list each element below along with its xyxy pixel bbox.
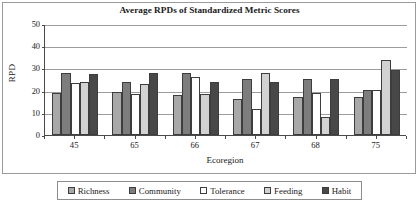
plot-area (44, 25, 406, 136)
legend-item[interactable]: Community (129, 186, 181, 196)
bar-group (226, 24, 286, 135)
bar (372, 90, 381, 136)
bar (210, 82, 219, 136)
bar (330, 79, 339, 135)
bar-group (45, 24, 105, 135)
bar-group (286, 24, 346, 135)
x-axis-label: Ecoregion (44, 155, 406, 165)
y-axis-tick-label: 40 (18, 43, 40, 51)
bar (140, 84, 149, 135)
bar (173, 95, 182, 135)
legend-swatch-icon (264, 187, 271, 194)
x-axis-boundary-tick (406, 136, 407, 139)
x-axis-tick-label: 66 (175, 140, 215, 150)
x-axis-boundary-tick (44, 136, 45, 139)
y-axis-tick-label: 20 (18, 88, 40, 96)
y-axis-tick-label: 0 (18, 132, 40, 140)
legend-label: Community (139, 186, 181, 196)
bar (149, 73, 158, 135)
legend-label: Tolerance (210, 186, 245, 196)
x-axis-tick (255, 136, 256, 139)
bar (191, 77, 200, 135)
x-axis-tick (376, 136, 377, 139)
bar (321, 117, 330, 135)
x-axis-boundary-tick (165, 136, 166, 139)
x-axis-tick (135, 136, 136, 139)
y-axis-tick-label: 30 (18, 65, 40, 73)
legend-swatch-icon (129, 187, 136, 194)
x-axis-tick (74, 136, 75, 139)
bar (391, 70, 400, 135)
bar (52, 93, 61, 135)
bar (354, 97, 363, 135)
bar (312, 93, 321, 135)
x-axis-tick-label: 75 (356, 140, 396, 150)
x-axis-tick (316, 136, 317, 139)
x-axis-tick-label: 45 (54, 140, 94, 150)
x-axis-tick-label: 65 (115, 140, 155, 150)
chart-legend: RichnessCommunityToleranceFeedingHabit (57, 181, 362, 200)
legend-label: Habit (332, 186, 352, 196)
y-axis-tick-label: 10 (18, 110, 40, 118)
bar (303, 79, 312, 135)
x-axis-tick-label: 67 (235, 140, 275, 150)
bar (61, 73, 70, 135)
legend-label: Richness (78, 186, 110, 196)
bar (131, 94, 140, 135)
bar (261, 73, 270, 135)
bar (200, 94, 209, 135)
x-axis-boundary-tick (285, 136, 286, 139)
bar (293, 97, 302, 135)
legend-label: Feeding (274, 186, 302, 196)
bar-group (105, 24, 165, 135)
bar (381, 60, 390, 135)
x-axis-boundary-tick (225, 136, 226, 139)
bar (363, 90, 372, 136)
x-axis-tick (195, 136, 196, 139)
y-axis-tick-labels: 01020304050 (14, 25, 40, 136)
bar (233, 99, 242, 135)
bar (71, 83, 80, 135)
bar (89, 74, 98, 135)
x-axis-boundary-tick (346, 136, 347, 139)
legend-item[interactable]: Habit (322, 186, 352, 196)
bar-group (347, 24, 407, 135)
bar (252, 109, 261, 135)
x-axis-tick-label: 68 (296, 140, 336, 150)
x-axis-tick-labels: 456566676875 (44, 136, 407, 154)
legend-item[interactable]: Richness (68, 186, 110, 196)
legend-swatch-icon (200, 187, 207, 194)
legend-item[interactable]: Tolerance (200, 186, 245, 196)
legend-item[interactable]: Feeding (264, 186, 302, 196)
chart-container: Average RPDs of Standardized Metric Scor… (0, 0, 419, 211)
bar (122, 82, 131, 135)
bar (242, 79, 251, 135)
y-axis-tick-label: 50 (18, 21, 40, 29)
bar (80, 82, 89, 135)
bar (270, 82, 279, 136)
x-axis-boundary-tick (104, 136, 105, 139)
legend-swatch-icon (322, 187, 329, 194)
bar-group (166, 24, 226, 135)
bar (112, 92, 121, 135)
chart-title: Average RPDs of Standardized Metric Scor… (0, 5, 419, 15)
legend-swatch-icon (68, 187, 75, 194)
bar (182, 73, 191, 135)
